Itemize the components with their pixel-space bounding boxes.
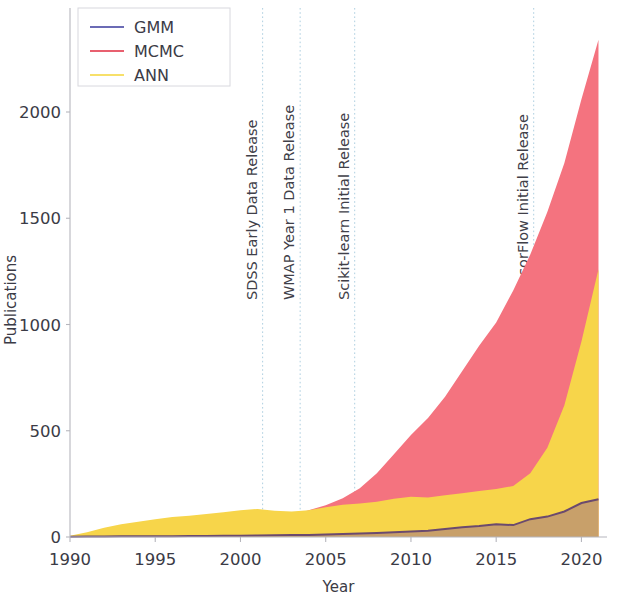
x-tick-label: 2010 [390,550,432,569]
annotation-label-1: WMAP Year 1 Data Release [281,105,297,300]
y-tick-label: 1000 [19,316,61,335]
y-tick-label: 0 [51,528,62,547]
x-tick-label: 2000 [219,550,261,569]
x-tick-label: 2015 [475,550,517,569]
annotation-label-0: SDSS Early Data Release [244,119,260,300]
figure-canvas: SDSS Early Data ReleaseWMAP Year 1 Data … [0,0,620,601]
y-tick-label: 1500 [19,209,61,228]
y-axis-title: Publications [2,255,20,345]
publications-area-chart: SDSS Early Data ReleaseWMAP Year 1 Data … [0,0,620,601]
legend-label-ann: ANN [134,66,169,85]
x-tick-label: 2020 [560,550,602,569]
x-tick-label: 2005 [305,550,347,569]
legend-label-mcmc: MCMC [134,42,184,61]
x-axis-title: Year [322,578,356,596]
annotation-label-2: Scikit-learn Initial Release [336,113,352,300]
x-tick-label: 1990 [49,550,91,569]
y-tick-label: 500 [30,422,62,441]
y-tick-label: 2000 [19,103,61,122]
x-tick-label: 1995 [134,550,176,569]
legend-label-gmm: GMM [134,18,174,37]
